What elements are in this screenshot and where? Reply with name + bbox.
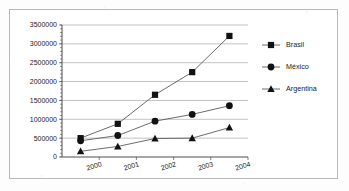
circle-marker	[114, 132, 121, 139]
legend-item-méxico: México	[262, 62, 309, 71]
chart-svg: 0500000100000015000002000000250000030000…	[0, 0, 349, 191]
circle-marker	[77, 137, 84, 144]
legend: BrasilMéxicoArgentina	[262, 40, 317, 93]
x-axis-tick-label: 2003	[197, 160, 214, 171]
legend-label: Brasil	[286, 40, 304, 49]
legend-label: Argentina	[286, 84, 317, 93]
square-marker	[226, 33, 232, 39]
x-axis-tick-label: 2004	[234, 160, 251, 171]
legend-item-brasil: Brasil	[262, 40, 304, 49]
y-axis-tick-label: 2500000	[30, 59, 57, 66]
y-axis-tick-label: 0	[53, 153, 57, 160]
y-axis-labels: 0500000100000015000002000000250000030000…	[30, 21, 57, 160]
square-marker	[189, 69, 195, 75]
circle-marker	[152, 118, 159, 125]
y-axis-tick-label: 3000000	[30, 40, 57, 47]
y-axis-tick-label: 1000000	[30, 116, 57, 123]
legend-label: México	[286, 62, 309, 71]
screenshot-frame: 0500000100000015000002000000250000030000…	[0, 0, 349, 191]
x-axis-tick-label: 2002	[160, 160, 177, 171]
y-axis-tick-label: 1500000	[30, 97, 57, 104]
square-marker	[152, 92, 158, 98]
square-marker	[268, 42, 274, 48]
y-axis-tick-label: 500000	[34, 135, 57, 142]
y-axis-tick-label: 2000000	[30, 78, 57, 85]
y-axis-tick-label: 3500000	[30, 21, 57, 28]
x-axis-tick-label: 2001	[123, 160, 140, 171]
line-chart: 0500000100000015000002000000250000030000…	[0, 0, 349, 191]
circle-marker	[268, 64, 275, 71]
x-axis-labels: 20002001200220032004	[86, 160, 252, 171]
x-axis-tick-label: 2000	[86, 160, 103, 171]
legend-item-argentina: Argentina	[262, 84, 317, 93]
circle-marker	[226, 102, 233, 109]
circle-marker	[189, 111, 196, 118]
square-marker	[115, 121, 121, 127]
